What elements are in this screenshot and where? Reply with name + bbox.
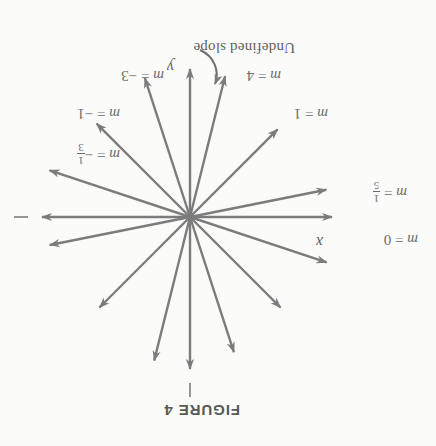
equals-sign: = [137,68,153,84]
ray-15-pos [50,217,190,245]
ray-3-pos [145,78,190,217]
equals-sign: = [301,106,317,122]
ray-1-neg [190,129,278,217]
slope-value: 3 [121,68,129,84]
slope-value: 0 [384,232,392,248]
ray-4-pos [154,217,190,361]
figure-panel: FIGURE 4 x y Undefined slope m = 0m = 15… [0,0,436,446]
figure-caption: FIGURE 4 [164,402,240,419]
equals-sign: = [93,106,109,122]
minus-sign: − [85,106,93,122]
slope-variable: m [396,185,407,201]
slope-label-4: m = 4 [247,68,281,83]
equals-sign: = [380,185,396,201]
slope-lines-diagram [0,0,436,446]
slope-value: 1 [294,106,302,122]
slope-label-15: m = 15 [373,179,407,203]
ray-1-pos [99,217,190,308]
slope-label-1: m = −1 [77,106,120,121]
fraction-numerator: 1 [373,191,381,204]
slope-variable: m [153,68,164,84]
fraction-numerator: 1 [77,153,85,166]
ray-4-neg [190,76,225,217]
equals-sign: = [93,147,109,163]
equals-sign: = [391,232,407,248]
minus-sign: − [129,68,137,84]
slope-variable: m [317,106,328,122]
equals-sign: = [254,68,270,84]
slope-label-13: m = −13 [77,141,120,165]
ray-13-pos [50,170,190,217]
slope-value: 4 [247,68,255,84]
slope-label-1: m = 1 [294,106,328,121]
slope-variable: m [109,106,120,122]
minus-sign: − [85,147,93,163]
slope-variable: m [407,232,418,248]
slope-variable: m [270,68,281,84]
undefined-slope-note: Undefined slope [193,40,295,55]
slope-fraction: 15 [373,180,381,204]
slope-fraction: 13 [77,142,85,166]
fraction-denominator: 5 [373,180,381,192]
rays-group [14,69,332,397]
slope-label-3: m = −3 [121,68,164,83]
slope-value: 1 [77,106,85,122]
y-axis-label: y [167,59,174,75]
fraction-denominator: 3 [77,142,85,154]
ray-15-neg [190,190,326,217]
x-axis-label: x [316,234,323,250]
slope-variable: m [109,147,120,163]
ray-13-neg [190,217,327,262]
slope-label-0: m = 0 [384,232,418,247]
